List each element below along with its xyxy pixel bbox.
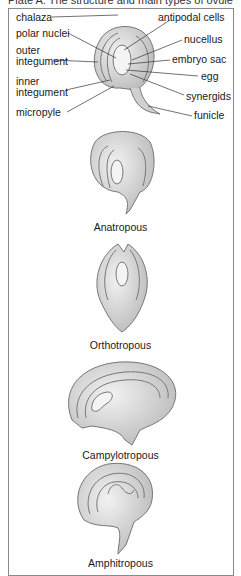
- caption-amphitropous: Amphitropous: [0, 557, 241, 569]
- caption-orthotropous: Orthotropous: [0, 339, 241, 351]
- caption-campylotropous: Campylotropous: [0, 449, 241, 461]
- label-chalaza: chalaza: [16, 12, 52, 23]
- label-synergids: synergids: [186, 91, 231, 102]
- label-polar-nuclei: polar nuclei: [16, 28, 70, 39]
- label-inner-integument-2: integument: [16, 87, 68, 98]
- label-micropyle: micropyle: [16, 107, 61, 118]
- label-funicle: funicle: [194, 110, 224, 121]
- amphitropous-ovule: [78, 463, 153, 554]
- anatropous-ovule: [91, 132, 154, 215]
- caption-anatropous: Anatropous: [0, 221, 241, 233]
- ovule-structure-diagram: [52, 15, 198, 116]
- orthotropous-ovule: [97, 244, 147, 332]
- label-nucellus: nucellus: [184, 34, 223, 45]
- label-antipodal-cells: antipodal cells: [158, 12, 225, 23]
- campylotropous-ovule: [69, 362, 176, 445]
- label-outer-integument-2: integument: [16, 56, 68, 67]
- label-egg: egg: [201, 71, 219, 82]
- label-embryo-sac: embryo sac: [172, 54, 226, 65]
